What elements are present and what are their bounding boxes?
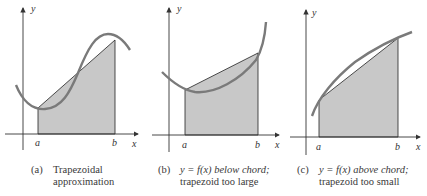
caption-a-line2: approximation [31, 176, 114, 188]
x-label-b: x [274, 139, 280, 150]
trapezoid-b [185, 53, 258, 135]
b-label-c: b [395, 141, 400, 152]
caption-b-line1: y = f(x) below chord; [180, 164, 270, 175]
trapezoid-a [38, 40, 115, 134]
a-label-b: a [182, 139, 187, 150]
caption-c: (c)y = f(x) above chord; trapezoid too s… [297, 164, 409, 188]
caption-a: (a)Trapezoidal approximation [31, 164, 114, 188]
caption-c-line2: trapezoid too small [297, 176, 409, 188]
panel-c: y x a b [290, 7, 421, 155]
caption-c-line1: y = f(x) above chord; [319, 164, 409, 175]
a-label-a: a [35, 137, 40, 148]
caption-a-line1: Trapezoidal [53, 164, 103, 175]
caption-b: (b)y = f(x) below chord; trapezoid too l… [158, 164, 270, 188]
a-label-c: a [316, 141, 321, 152]
caption-tag-c: (c) [297, 164, 319, 176]
b-label-b: b [255, 139, 260, 150]
y-label-a: y [30, 3, 36, 14]
y-label-b: y [176, 3, 182, 14]
caption-tag-b: (b) [158, 164, 180, 176]
x-label-c: x [415, 141, 421, 152]
trapezoid-c [319, 38, 398, 137]
caption-b-line2: trapezoid too large [158, 176, 270, 188]
b-label-a: b [112, 137, 117, 148]
panel-a: y x a b [5, 3, 138, 150]
panel-b: y x a b [152, 3, 280, 152]
y-label-c: y [311, 7, 317, 18]
caption-tag-a: (a) [31, 164, 53, 176]
x-label-a: x [131, 138, 137, 149]
